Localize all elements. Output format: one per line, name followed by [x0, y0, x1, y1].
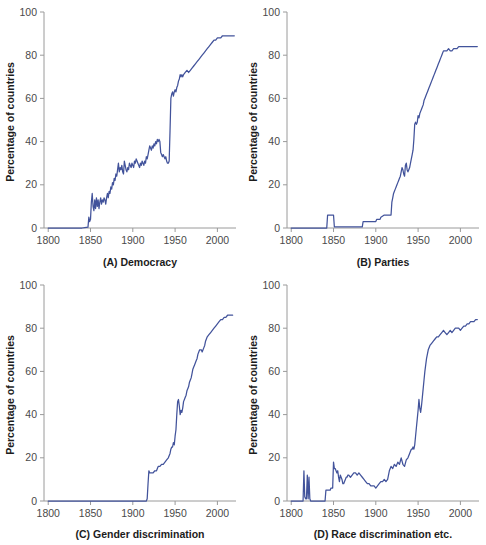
figure-grid: Percentage of countries 0204060801001800… — [0, 0, 486, 545]
panel-d-race-discrimination: Percentage of countries 0204060801001800… — [243, 273, 486, 545]
x-tick-label: 2000 — [206, 234, 230, 246]
x-tick-label: 1850 — [322, 507, 346, 519]
y-tick-label: 40 — [268, 408, 280, 420]
y-tick-label: 80 — [268, 49, 280, 61]
y-tick-label: 0 — [274, 222, 280, 234]
x-tick-label: 1800 — [280, 507, 304, 519]
x-tick-label: 2000 — [206, 507, 230, 519]
y-tick-label: 40 — [25, 135, 37, 147]
panel-b-caption: (B) Parties — [357, 256, 410, 268]
panel-c-axes: 02040608010018001850190019502000 — [19, 279, 236, 519]
panel-c-ylabel: Percentage of countries — [4, 335, 16, 455]
x-tick-label: 1800 — [37, 234, 61, 246]
panel-c-svg: Percentage of countries 0204060801001800… — [0, 273, 243, 545]
panel-d-axes: 02040608010018001850190019502000 — [262, 279, 479, 519]
x-tick-label: 2000 — [449, 234, 473, 246]
y-tick-label: 20 — [268, 178, 280, 190]
y-tick-label: 0 — [31, 495, 37, 507]
panel-a-ylabel: Percentage of countries — [4, 62, 16, 182]
y-tick-label: 60 — [268, 92, 280, 104]
y-tick-label: 0 — [274, 495, 280, 507]
y-tick-label: 100 — [262, 6, 280, 18]
y-tick-label: 100 — [19, 6, 37, 18]
y-tick-label: 80 — [25, 49, 37, 61]
panel-a-series-line — [48, 36, 234, 228]
panel-d-svg: Percentage of countries 0204060801001800… — [243, 273, 486, 545]
y-tick-label: 20 — [25, 451, 37, 463]
x-tick-label: 1950 — [163, 507, 187, 519]
x-tick-label: 1900 — [364, 234, 388, 246]
y-tick-label: 80 — [268, 322, 280, 334]
panel-c-gender-discrimination: Percentage of countries 0204060801001800… — [0, 273, 243, 545]
panel-b-series-line — [291, 47, 477, 228]
y-tick-label: 100 — [262, 279, 280, 291]
panel-a-caption: (A) Democracy — [103, 256, 177, 268]
panel-b-svg: Percentage of countries 0204060801001800… — [243, 0, 486, 273]
x-tick-label: 1950 — [406, 234, 430, 246]
panel-d-ylabel: Percentage of countries — [247, 335, 259, 455]
x-tick-label: 1900 — [121, 507, 145, 519]
y-tick-label: 20 — [25, 178, 37, 190]
y-tick-label: 40 — [25, 408, 37, 420]
x-tick-label: 1850 — [79, 507, 103, 519]
panel-b-ylabel: Percentage of countries — [247, 62, 259, 182]
y-tick-label: 60 — [25, 365, 37, 377]
x-tick-label: 1850 — [79, 234, 103, 246]
panel-a-democracy: Percentage of countries 0204060801001800… — [0, 0, 243, 273]
panel-a-svg: Percentage of countries 0204060801001800… — [0, 0, 243, 273]
y-tick-label: 100 — [19, 279, 37, 291]
x-tick-label: 1850 — [322, 234, 346, 246]
x-tick-label: 1900 — [121, 234, 145, 246]
panel-d-series-line — [291, 320, 477, 501]
y-tick-label: 60 — [25, 92, 37, 104]
y-tick-label: 0 — [31, 222, 37, 234]
panel-d-caption: (D) Race discrimination etc. — [314, 528, 452, 540]
x-tick-label: 1900 — [364, 507, 388, 519]
x-tick-label: 1950 — [406, 507, 430, 519]
y-tick-label: 20 — [268, 451, 280, 463]
panel-c-series-line — [48, 315, 232, 501]
x-tick-label: 1950 — [163, 234, 187, 246]
panel-b-parties: Percentage of countries 0204060801001800… — [243, 0, 486, 273]
panel-c-caption: (C) Gender discrimination — [76, 528, 205, 540]
x-tick-label: 2000 — [449, 507, 473, 519]
panel-b-axes: 02040608010018001850190019502000 — [262, 6, 479, 246]
x-tick-label: 1800 — [37, 507, 61, 519]
y-tick-label: 40 — [268, 135, 280, 147]
y-tick-label: 80 — [25, 322, 37, 334]
y-tick-label: 60 — [268, 365, 280, 377]
x-tick-label: 1800 — [280, 234, 304, 246]
panel-a-axes: 02040608010018001850190019502000 — [19, 6, 236, 246]
